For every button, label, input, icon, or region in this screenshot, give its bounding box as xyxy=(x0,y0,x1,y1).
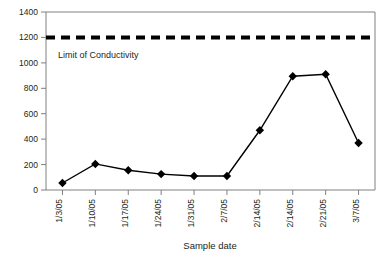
x-tick-label: 2/21/05 xyxy=(318,199,328,228)
chart-container: 0 200 400 600 800 1000 1200 1400 Limit o… xyxy=(0,0,388,260)
y-tick-label: 1200 xyxy=(19,32,38,42)
limit-of-conductivity-label: Limit of Conductivity xyxy=(58,50,139,60)
y-tick-label: 400 xyxy=(24,134,38,144)
y-tick-label: 800 xyxy=(24,83,38,93)
x-tick-label: 3/7/05 xyxy=(351,199,361,223)
y-tick-label: 1000 xyxy=(19,58,38,68)
y-tick-label: 0 xyxy=(33,185,38,195)
x-tick-label: 2/14/05 xyxy=(285,199,295,228)
y-tick-label: 1400 xyxy=(19,7,38,17)
y-tick-label: 600 xyxy=(24,109,38,119)
x-tick-label: 1/17/05 xyxy=(120,199,130,228)
x-tick-label: 1/24/05 xyxy=(153,199,163,228)
conductivity-line-chart: 0 200 400 600 800 1000 1200 1400 Limit o… xyxy=(0,0,388,260)
y-tick-label: 200 xyxy=(24,160,38,170)
x-tick-label: 1/3/05 xyxy=(54,199,64,223)
x-tick-label: 1/31/05 xyxy=(186,199,196,228)
x-tick-label: 1/10/05 xyxy=(87,199,97,228)
x-axis-title: Sample date xyxy=(183,240,236,251)
x-tick-label: 2/14/05 xyxy=(252,199,262,228)
x-tick-label: 2/7/05 xyxy=(219,199,229,223)
